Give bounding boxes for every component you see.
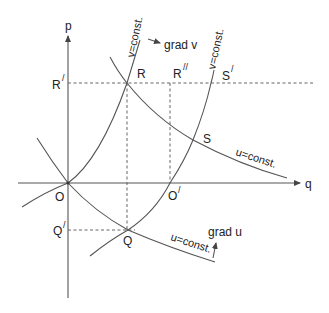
origin-point xyxy=(66,181,69,184)
q-axis-label: q xyxy=(305,177,312,191)
grad-v-label: grad v xyxy=(164,38,197,52)
double-prime-mark: // xyxy=(183,62,189,72)
point-label-r-double-prime: R xyxy=(173,67,182,81)
grad-v-arrow xyxy=(148,39,160,43)
v-const-label-left: v=const. xyxy=(124,16,144,59)
prime-mark: / xyxy=(231,64,234,74)
u-const-label-upper: u=const. xyxy=(234,145,278,169)
prime-mark: / xyxy=(63,220,66,230)
v-const-curve-right xyxy=(90,70,214,256)
grad-u-label: grad u xyxy=(208,225,242,239)
uv-coordinate-diagram: p q O O / R R / R // S S / Q Q / v=const… xyxy=(0,0,329,313)
point-label-q-prime: Q xyxy=(53,224,62,238)
prime-mark: / xyxy=(62,73,65,83)
v-const-label-right: v=const. xyxy=(205,28,225,71)
point-label-o: O xyxy=(55,190,64,204)
point-label-o-prime: O xyxy=(168,189,177,203)
point-label-r-prime: R xyxy=(52,78,61,92)
point-label-q: Q xyxy=(123,234,132,248)
point-label-r: R xyxy=(137,67,146,81)
point-label-s: S xyxy=(203,132,211,146)
point-label-s-prime: S xyxy=(222,69,230,83)
u-const-label-lower: u=const. xyxy=(169,230,213,254)
v-const-curve-left xyxy=(22,40,140,207)
prime-mark: / xyxy=(178,185,181,195)
grad-u-arrow xyxy=(213,243,216,258)
p-axis-label: p xyxy=(65,19,72,33)
